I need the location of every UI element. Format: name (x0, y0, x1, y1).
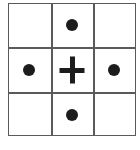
plus-icon-center (60, 57, 85, 84)
grid-vertical-line-2 (93, 4, 95, 135)
dot-icon-top (66, 19, 78, 31)
grid-horizontal-line-2 (9, 92, 135, 94)
dot-icon-bottom (66, 109, 78, 121)
grid-vertical-line-1 (51, 4, 53, 135)
dot-icon-right (108, 64, 120, 76)
grid-horizontal-line-1 (9, 47, 135, 49)
dot-icon-left (23, 64, 35, 76)
